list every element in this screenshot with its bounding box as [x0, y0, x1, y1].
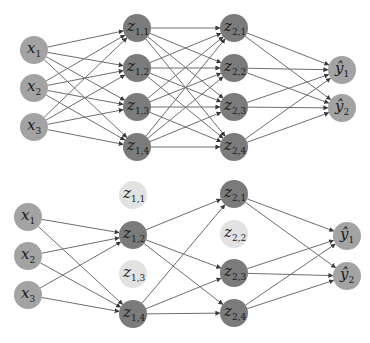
edge-z12-z21 — [146, 199, 221, 229]
node-x2: x2 — [14, 242, 42, 270]
node-x1: x1 — [20, 36, 48, 64]
node-z13-dropped: z1,3 — [119, 260, 147, 288]
edge-x3-z12 — [46, 75, 125, 120]
node-y2: ŷ2 — [328, 94, 356, 122]
node-z21: z2,1 — [220, 180, 248, 208]
edge-x3-z11 — [44, 38, 127, 118]
node-z11: z1,1 — [123, 14, 151, 42]
nodes: x1x2x3z1,1z1,2z1,3z1,4z2,1z2,2z2,3z2,4ŷ1… — [14, 180, 361, 328]
edge-x1-z12 — [42, 219, 119, 232]
edges — [38, 199, 335, 314]
edge-z21-y1 — [247, 33, 329, 65]
node-z24: z2,4 — [220, 299, 248, 327]
edge-z23-y2 — [248, 107, 328, 108]
node-z14: z1,4 — [123, 133, 151, 161]
edges — [44, 28, 331, 147]
node-z23: z2,3 — [220, 93, 248, 121]
dropout-network: x1x2x3z1,1z1,2z1,3z1,4z2,1z2,2z2,3z2,4ŷ1… — [14, 180, 361, 328]
edge-x2-z11 — [46, 35, 125, 81]
edge-z14-z23 — [146, 278, 221, 308]
node-y1: ŷ1 — [328, 56, 356, 84]
node-z12: z1,2 — [119, 221, 147, 249]
node-x1: x1 — [14, 203, 42, 231]
node-z22: z2,2 — [220, 54, 248, 82]
node-x3: x3 — [14, 281, 42, 309]
node-z24: z2,4 — [220, 133, 248, 161]
edge-z21-y2 — [245, 202, 335, 268]
node-z22-dropped: z2,2 — [220, 220, 248, 248]
node-z13: z1,3 — [123, 93, 151, 121]
edge-x1-z14 — [44, 60, 127, 138]
edge-x3-z14 — [48, 130, 124, 145]
edge-z24-y2 — [247, 113, 329, 142]
edge-z14-z21 — [142, 205, 225, 304]
node-z21: z2,1 — [220, 14, 248, 42]
edge-z12-z24 — [144, 244, 223, 305]
neural-network-diagram: x1x2x3z1,1z1,2z1,3z1,4z2,1z2,2z2,3z2,4ŷ1… — [0, 0, 370, 343]
edge-x1-z11 — [48, 31, 124, 47]
nodes: x1x2x3z1,1z1,2z1,3z1,4z2,1z2,2z2,3z2,4ŷ1… — [20, 14, 356, 161]
edge-x3-z13 — [48, 110, 124, 125]
node-z23: z2,3 — [220, 259, 248, 287]
edge-x3-z12 — [40, 242, 121, 288]
node-y1: ŷ1 — [333, 222, 361, 250]
edge-z14-z24 — [147, 313, 220, 314]
node-z11-dropped: z1,1 — [119, 181, 147, 209]
node-x3: x3 — [20, 113, 48, 141]
standard-network: x1x2x3z1,1z1,2z1,3z1,4z2,1z2,2z2,3z2,4ŷ1… — [20, 14, 356, 161]
node-z12: z1,2 — [123, 54, 151, 82]
node-x2: x2 — [20, 74, 48, 102]
node-z14: z1,4 — [119, 300, 147, 328]
edge-z24-y1 — [245, 78, 330, 139]
edge-z21-y1 — [247, 199, 334, 231]
node-y2: ŷ2 — [333, 262, 361, 290]
edge-x2-z14 — [40, 263, 120, 307]
edge-z24-y1 — [246, 244, 336, 305]
